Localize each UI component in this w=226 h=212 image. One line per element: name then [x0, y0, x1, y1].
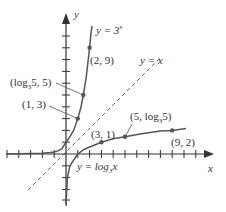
point-label-1-3: (1, 3) [22, 98, 46, 111]
point-label-log35-5: (log35, 5) [10, 76, 52, 91]
point-3-1 [99, 140, 103, 144]
identity-line-label: y = x [139, 54, 163, 66]
x-axis-label: x [207, 162, 213, 174]
exp-curve [6, 26, 92, 154]
point-1-3 [76, 116, 80, 120]
log-curve-label: y = log3x [76, 160, 117, 175]
point-2-9 [87, 46, 91, 50]
point-label-3-1: (3, 1) [91, 128, 115, 141]
y-axis-arrow-icon [62, 13, 70, 24]
x-axis-arrow-icon [204, 150, 214, 158]
exp-curve-label: y = 3x [95, 23, 123, 36]
point-9-2 [170, 128, 174, 132]
point-label-9-2: (9, 2) [171, 136, 195, 149]
y-axis: y [62, 8, 79, 204]
point-label-2-9: (2, 9) [90, 54, 114, 67]
y-axis-label: y [73, 8, 79, 20]
point-label-5-log35: (5, log35) [130, 110, 172, 125]
function-inverse-graph: x y [0, 0, 226, 212]
